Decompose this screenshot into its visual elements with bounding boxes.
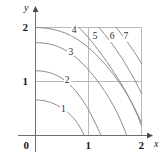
axis-lines [18,7,152,152]
contour-label-5: 5 [92,32,99,42]
y-axis-label: y [24,3,28,13]
contour-label-4: 4 [71,26,78,36]
y-tick-label-2: 2 [23,22,29,33]
contour-label-2: 2 [64,76,71,86]
contour-curve-3 [36,43,127,136]
axis-origin-label: 0 [24,140,30,151]
contour-label-3: 3 [67,48,74,58]
contour-label-1: 1 [60,105,67,115]
contour-label-6: 6 [109,32,116,42]
x-axis-label: x [154,139,158,149]
y-tick-label-1: 1 [23,76,29,87]
contour-plot-figure: 0 1 2 1 2 x y 1234567 [0,0,164,164]
x-tick-label-2: 2 [139,140,145,151]
contour-label-7: 7 [123,32,130,42]
x-tick-label-1: 1 [86,140,92,151]
gridlines [36,28,142,136]
